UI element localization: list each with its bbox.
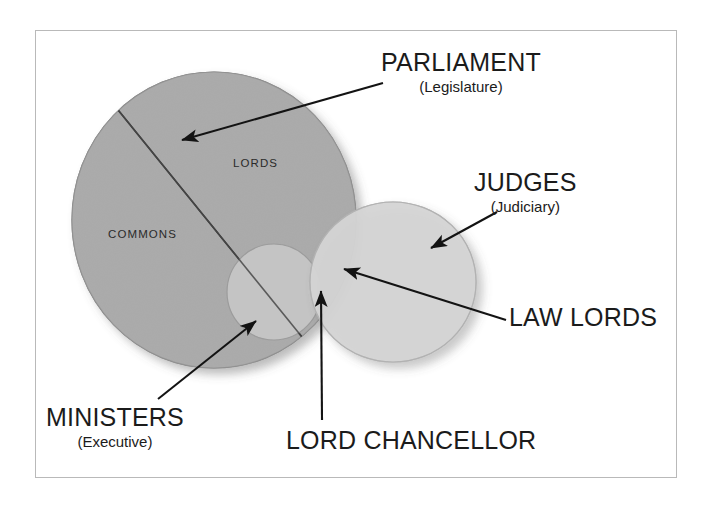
diagram-canvas: COMMONS LORDS PARLIAMENT (Legislature) J… xyxy=(0,0,718,506)
judges-circle[interactable] xyxy=(310,202,476,362)
callout-ministers[interactable]: MINISTERS (Executive) xyxy=(46,405,184,449)
callout-judges-title: JUDGES xyxy=(474,170,577,196)
callout-parliament-subtitle: (Legislature) xyxy=(381,79,541,94)
callout-ministers-subtitle: (Executive) xyxy=(46,434,184,449)
callout-lord-chancellor[interactable]: LORD CHANCELLOR xyxy=(286,428,536,454)
callout-judges-subtitle: (Judiciary) xyxy=(474,199,577,214)
callout-law-lords[interactable]: LAW LORDS xyxy=(509,305,657,331)
callout-judges[interactable]: JUDGES (Judiciary) xyxy=(474,170,577,214)
region-label-lords: LORDS xyxy=(233,157,278,169)
callout-parliament[interactable]: PARLIAMENT (Legislature) xyxy=(381,50,541,94)
arrow-lord-chancellor xyxy=(321,291,322,420)
callout-ministers-title: MINISTERS xyxy=(46,405,184,431)
callout-lord-chancellor-title: LORD CHANCELLOR xyxy=(286,428,536,454)
region-label-commons: COMMONS xyxy=(108,228,177,240)
parliament-circle[interactable] xyxy=(72,72,356,368)
ministers-circle[interactable] xyxy=(227,244,321,340)
callout-law-lords-title: LAW LORDS xyxy=(509,305,657,331)
callout-parliament-title: PARLIAMENT xyxy=(381,50,541,76)
